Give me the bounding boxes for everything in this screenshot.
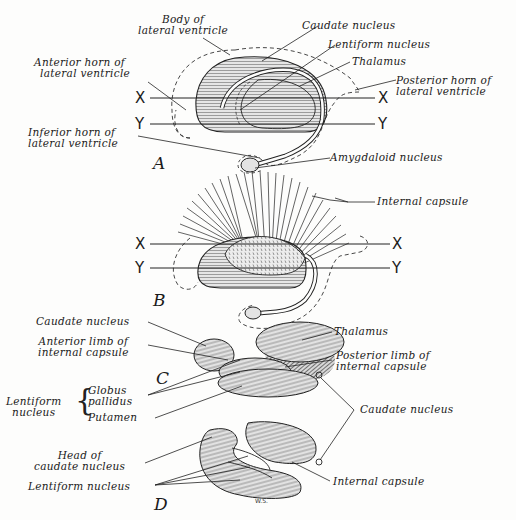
axis-y-left-b: Y (135, 261, 144, 276)
panel-label-c: C (156, 368, 169, 388)
label-caudate-nucleus-tail: Caudate nucleus (360, 404, 453, 415)
label-line: lateral ventricle (28, 138, 118, 149)
label-anterior-limb: Anterior limb of internal capsule (38, 336, 129, 358)
label-globus-pallidus: Globus pallidus (88, 385, 132, 407)
label-internal-capsule-d: Internal capsule (333, 476, 424, 487)
label-line: caudate nucleus (34, 461, 125, 472)
label-posterior-limb: Posterior limb of internal capsule (336, 350, 430, 372)
label-line: lateral ventricle (396, 86, 491, 97)
label-body-of-lateral-ventricle: Body of lateral ventricle (138, 14, 228, 36)
panel-label-b: B (153, 290, 166, 310)
artist-signature: W.S. (255, 497, 268, 504)
label-line: nucleus (6, 407, 61, 418)
axis-x-left-b: X (135, 237, 145, 252)
axis-y-right-a: Y (378, 117, 387, 132)
label-line: internal capsule (336, 361, 430, 372)
label-line: lateral ventricle (34, 68, 130, 79)
panel-label-a: A (153, 153, 165, 173)
label-lentiform-nucleus-a: Lentiform nucleus (328, 39, 430, 50)
label-line: internal capsule (38, 347, 129, 358)
panel-b-drawing (150, 171, 390, 328)
label-caudate-nucleus-c: Caudate nucleus (36, 316, 129, 327)
label-head-of-caudate: Head of caudate nucleus (34, 450, 125, 472)
label-amygdaloid-nucleus: Amygdaloid nucleus (330, 152, 443, 163)
panel-d-drawing (145, 422, 330, 499)
label-posterior-horn: Posterior horn of lateral ventricle (396, 75, 491, 97)
label-lentiform-nucleus-d: Lentiform nucleus (28, 481, 130, 492)
label-caudate-nucleus-a: Caudate nucleus (302, 20, 395, 31)
label-internal-capsule-b: Internal capsule (377, 196, 468, 207)
label-anterior-horn: Anterior horn of lateral ventricle (34, 57, 130, 79)
panel-c-drawing (148, 322, 344, 418)
axis-y-right-b: Y (392, 261, 401, 276)
label-line: pallidus (88, 396, 132, 407)
caudate-tail-leaders (320, 378, 354, 460)
label-lentiform-group: Lentiform nucleus (6, 396, 61, 418)
label-thalamus-a: Thalamus (352, 56, 406, 67)
panel-label-d: D (154, 494, 168, 514)
axis-x-right-a: X (378, 91, 388, 106)
label-inferior-horn: Inferior horn of lateral ventricle (28, 127, 118, 149)
label-putamen: Putamen (88, 412, 137, 423)
axis-x-right-b: X (392, 237, 402, 252)
axis-y-left-a: Y (135, 117, 144, 132)
axis-x-left-a: X (135, 91, 145, 106)
label-line: lateral ventricle (138, 25, 228, 36)
anatomy-figure: Body of lateral ventricle Caudate nucleu… (0, 0, 516, 520)
label-thalamus-c: Thalamus (334, 326, 388, 337)
